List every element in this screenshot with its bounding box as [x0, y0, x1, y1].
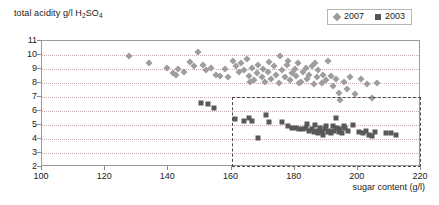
data-point-2007 — [253, 70, 260, 77]
x-tick-label: 180 — [286, 171, 301, 181]
y-tick-mark — [37, 82, 41, 83]
data-point-2007 — [271, 63, 278, 70]
data-point-2007 — [207, 64, 214, 71]
data-point-2007 — [297, 78, 304, 85]
y-axis-title-main: total acidity g/l H — [14, 8, 82, 18]
data-point-2003 — [289, 125, 294, 130]
legend-item-2003[interactable]: 2003 — [375, 12, 405, 21]
data-point-2003 — [340, 131, 345, 136]
data-point-2003 — [322, 127, 327, 132]
x-tick-mark — [104, 166, 105, 170]
y-tick-label: 10 — [11, 49, 37, 59]
data-point-2007 — [299, 68, 306, 75]
y-tick-label: 2 — [11, 161, 37, 171]
y-tick-mark — [37, 138, 41, 139]
data-point-2007 — [258, 74, 265, 81]
y-axis-ticks: 234567891011 — [8, 40, 37, 166]
y-tick-mark — [37, 110, 41, 111]
y-axis-title: total acidity g/l H2SO4 — [14, 8, 103, 18]
x-tick-label: 120 — [97, 171, 112, 181]
data-point-2007 — [245, 72, 252, 79]
legend-item-2007[interactable]: 2007 — [334, 12, 364, 21]
y-tick-mark — [37, 152, 41, 153]
data-point-2007 — [278, 67, 285, 74]
data-point-2007 — [236, 68, 243, 75]
diamond-marker-icon — [333, 12, 341, 20]
data-point-2003 — [357, 130, 362, 135]
x-tick-label: 100 — [33, 171, 48, 181]
data-point-2007 — [170, 70, 177, 77]
x-tick-label: 220 — [412, 171, 427, 181]
data-point-2007 — [248, 64, 255, 71]
x-tick-mark — [294, 166, 295, 170]
data-point-2007 — [217, 72, 224, 79]
x-tick-mark — [41, 166, 42, 170]
data-point-2003 — [351, 123, 356, 128]
data-point-2003 — [212, 106, 217, 111]
data-point-2003 — [363, 128, 368, 133]
data-point-2003 — [232, 117, 237, 122]
data-point-2003 — [264, 113, 269, 118]
y-tick-mark — [37, 124, 41, 125]
x-tick-label: 140 — [160, 171, 175, 181]
x-tick-mark — [357, 166, 358, 170]
data-point-2003 — [246, 116, 251, 121]
data-point-2003 — [328, 131, 333, 136]
data-point-2003 — [242, 118, 247, 123]
data-point-2007 — [293, 72, 300, 79]
x-tick-mark — [167, 166, 168, 170]
data-point-2007 — [304, 75, 311, 82]
data-point-2003 — [333, 116, 338, 121]
y-tick-mark — [37, 68, 41, 69]
data-point-2003 — [341, 124, 346, 129]
data-point-2003 — [324, 124, 329, 129]
y-tick-mark — [37, 54, 41, 55]
scatter-chart: total acidity g/l H2SO4 2007 2003 234567… — [0, 0, 439, 205]
data-point-2007 — [312, 60, 319, 67]
data-point-2003 — [300, 127, 305, 132]
data-point-2007 — [174, 65, 181, 72]
data-point-2003 — [294, 125, 299, 130]
data-points-layer — [42, 41, 419, 165]
data-point-2003 — [256, 135, 261, 140]
data-point-2007 — [308, 63, 315, 70]
data-point-2007 — [329, 82, 336, 89]
data-point-2003 — [267, 120, 272, 125]
data-point-2007 — [368, 95, 375, 102]
data-point-2003 — [335, 125, 340, 130]
y-axis-title-tail: SO — [86, 8, 99, 18]
data-point-2003 — [297, 127, 302, 132]
data-point-2003 — [199, 100, 204, 105]
legend: 2007 2003 — [327, 9, 412, 25]
data-point-2003 — [311, 130, 316, 135]
data-point-2007 — [337, 96, 344, 103]
data-point-2007 — [318, 79, 325, 86]
square-marker-icon — [375, 14, 381, 20]
x-tick-label: 160 — [223, 171, 238, 181]
data-point-2003 — [327, 128, 332, 133]
data-point-2007 — [125, 53, 132, 60]
data-point-2007 — [200, 61, 207, 68]
data-point-2007 — [296, 79, 303, 86]
data-point-2007 — [266, 58, 273, 65]
data-point-2003 — [317, 125, 322, 130]
data-point-2007 — [195, 49, 202, 56]
data-point-2007 — [286, 77, 293, 84]
data-point-2007 — [212, 71, 219, 78]
data-point-2007 — [282, 74, 289, 81]
data-point-2003 — [286, 124, 291, 129]
y-tick-label: 4 — [11, 133, 37, 143]
data-point-2007 — [373, 79, 380, 86]
legend-label-2003: 2003 — [385, 12, 405, 21]
data-point-2003 — [370, 134, 375, 139]
data-point-2007 — [237, 60, 244, 67]
data-point-2007 — [302, 64, 309, 71]
data-point-2007 — [313, 74, 320, 81]
data-point-2003 — [306, 128, 311, 133]
y-tick-label: 8 — [11, 77, 37, 87]
data-point-2007 — [294, 60, 301, 67]
data-point-2007 — [285, 57, 292, 64]
y-tick-mark — [37, 40, 41, 41]
x-tick-mark — [231, 166, 232, 170]
data-point-2003 — [366, 132, 371, 137]
